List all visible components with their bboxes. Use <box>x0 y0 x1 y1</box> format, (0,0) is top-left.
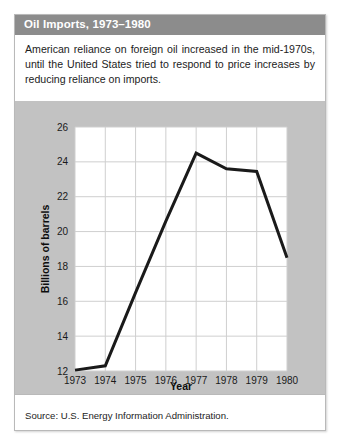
figure-caption-text: American reliance on foreign oil increas… <box>25 42 315 88</box>
y-tick-label: 18 <box>57 261 69 272</box>
y-tick-label: 22 <box>57 191 69 202</box>
x-axis-title: Year <box>170 380 192 392</box>
y-axis-tick-labels: 1214161820222426 <box>57 122 69 377</box>
figure-title-band: Oil Imports, 1973–1980 <box>15 15 325 35</box>
x-tick-label: 1979 <box>246 375 269 386</box>
y-axis-title: Billions of barrels <box>39 204 51 293</box>
y-tick-label: 24 <box>57 156 69 167</box>
y-tick-label: 14 <box>57 331 69 342</box>
x-tick-label: 1973 <box>64 375 87 386</box>
figure-card: Oil Imports, 1973–1980 American reliance… <box>14 14 326 431</box>
figure-caption-block: American reliance on foreign oil increas… <box>15 35 325 97</box>
plot-area-background <box>75 127 287 371</box>
y-tick-label: 20 <box>57 226 69 237</box>
x-tick-label: 1978 <box>215 375 238 386</box>
source-block: Source: U.S. Energy Information Administ… <box>15 395 325 431</box>
x-tick-label: 1980 <box>276 375 299 386</box>
figure-title: Oil Imports, 1973–1980 <box>24 18 151 30</box>
chart-panel: 1214161820222426 19731974197519761977197… <box>15 101 325 394</box>
source-text: Source: U.S. Energy Information Administ… <box>25 410 229 421</box>
y-tick-label: 16 <box>57 296 69 307</box>
y-tick-label: 26 <box>57 122 69 133</box>
x-tick-label: 1975 <box>124 375 147 386</box>
x-tick-label: 1974 <box>94 375 117 386</box>
line-chart: 1214161820222426 19731974197519761977197… <box>15 101 325 394</box>
